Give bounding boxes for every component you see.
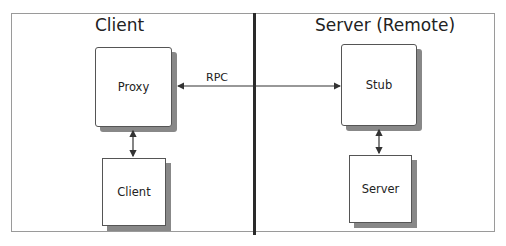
edges-layer	[0, 0, 506, 246]
